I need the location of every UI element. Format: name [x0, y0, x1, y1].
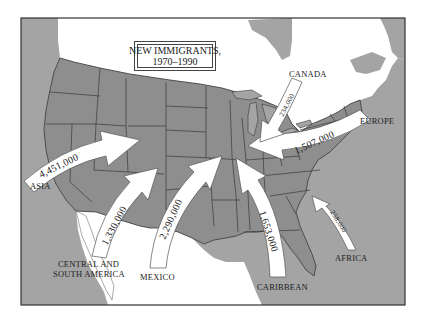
label-central-south-america-2: SOUTH AMERICA [53, 269, 125, 279]
label-mexico: MEXICO [140, 272, 175, 282]
map-title-inner: NEW IMMIGRANTS, 1970–1990 [137, 44, 213, 68]
label-caribbean: CARIBBEAN [257, 282, 308, 292]
label-canada: CANADA [289, 69, 327, 79]
label-africa: AFRICA [335, 253, 368, 263]
map-title: NEW IMMIGRANTS, [129, 45, 221, 56]
label-europe: EUROPE [360, 116, 394, 126]
map-title-box: NEW IMMIGRANTS, 1970–1990 [134, 41, 216, 71]
map-subtitle-years: 1970–1990 [153, 56, 198, 67]
label-asia: ASIA [30, 181, 51, 191]
label-central-south-america-1: CENTRAL AND [58, 259, 119, 269]
